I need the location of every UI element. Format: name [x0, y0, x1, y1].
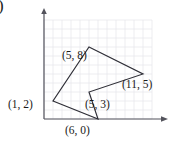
x-axis-arrow-icon	[161, 116, 168, 121]
label-1-2: (1, 2)	[8, 98, 33, 111]
label-5-3: (5, 3)	[85, 98, 110, 111]
coordinate-plane-figure: (5, 8) (11, 5) (5, 3) (1, 2) (6, 0)	[0, 0, 171, 145]
label-5-8: (5, 8)	[62, 49, 87, 62]
y-axis-arrow-icon	[41, 8, 47, 14]
label-6-0: (6, 0)	[65, 124, 90, 137]
label-11-5: (11, 5)	[122, 78, 152, 91]
figure-canvas: )	[0, 0, 171, 145]
